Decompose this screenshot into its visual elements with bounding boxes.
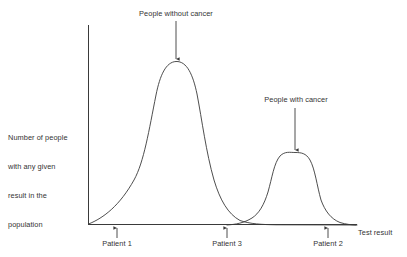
y-axis-label-line-3: result in the	[8, 191, 84, 201]
curve-people-with-cancer	[227, 152, 356, 225]
y-axis-label-line-2: with any given	[8, 162, 84, 172]
patient-label-2: Patient 2	[299, 239, 357, 249]
x-axis-label: Test result	[358, 228, 406, 238]
annotation-label-people-with-cancer: People with cancer	[238, 95, 354, 105]
y-axis-label: Number of people with any given result i…	[8, 114, 84, 248]
annotation-label-people-without-cancer: People without cancer	[112, 9, 240, 19]
y-axis-label-line-1: Number of people	[8, 133, 84, 143]
y-axis-label-line-4: population	[8, 220, 84, 230]
patient-label-1: Patient 1	[88, 239, 146, 249]
figure-canvas: Number of people with any given result i…	[0, 0, 407, 257]
patient-label-3: Patient 3	[198, 239, 256, 249]
curve-people-without-cancer	[89, 61, 358, 225]
